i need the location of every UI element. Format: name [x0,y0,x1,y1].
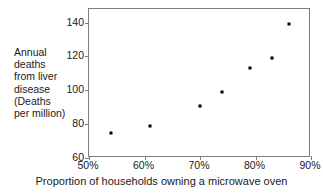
scatter-chart: Annual deaths from liver disease (Deaths… [0,0,323,195]
y-axis-tick-label: 120 [66,50,84,61]
x-axis-tick-label: 80% [244,159,265,172]
x-axis-tick-label: 90% [299,159,320,172]
data-point [199,104,202,107]
data-point [271,57,274,60]
x-axis-tick-label: 70% [188,159,209,172]
y-axis-tick [85,90,89,91]
x-axis-tick-label: 60% [133,159,154,172]
data-point [287,23,290,26]
x-axis-title: Proportion of households owning a microw… [0,175,323,188]
data-point [221,90,224,93]
y-axis-tick [85,56,89,57]
data-point [110,131,113,134]
plot-area [88,8,310,157]
y-axis-tick [85,124,89,125]
y-axis-tick-label: 140 [66,16,84,27]
x-axis-tick-label: 50% [77,159,98,172]
data-point [248,67,251,70]
data-point-layer [89,9,309,156]
y-axis-tick-labels: 6080100120140 [56,8,84,157]
x-axis-tick-labels: 50%60%70%80%90% [88,159,310,173]
y-axis-tick-label: 100 [66,84,84,95]
data-point [149,124,152,127]
y-axis-tick-label: 80 [72,118,84,129]
y-axis-tick [85,23,89,24]
